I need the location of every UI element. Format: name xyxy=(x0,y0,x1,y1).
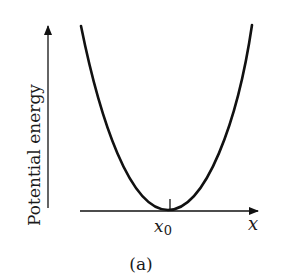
figure-caption: (a) xyxy=(129,254,152,274)
y-axis-label: Potential energy xyxy=(24,84,44,226)
minimum-label: x0 xyxy=(154,216,172,238)
x-axis-label: x xyxy=(248,213,258,234)
potential-energy-diagram: Potential energy x0 x (a) xyxy=(0,0,283,277)
potential-curve xyxy=(81,25,252,210)
